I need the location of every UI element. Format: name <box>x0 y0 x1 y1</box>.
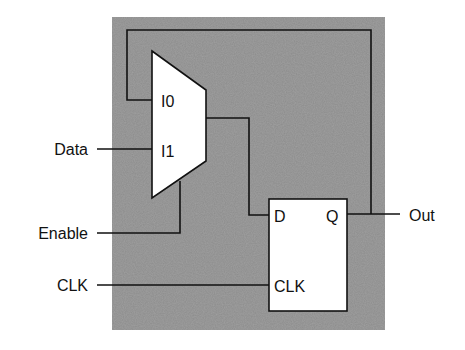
data-input-label: Data <box>54 141 88 158</box>
circuit-diagram: I0 I1 D Q CLK Data Enable CLK Out <box>0 0 465 350</box>
ff-q-label: Q <box>326 208 338 225</box>
mux-input-i0-label: I0 <box>161 93 174 110</box>
enable-input-label: Enable <box>38 225 88 242</box>
out-label: Out <box>409 207 435 224</box>
clk-input-label: CLK <box>57 277 88 294</box>
ff-clk-label: CLK <box>274 278 305 295</box>
ff-d-label: D <box>274 208 286 225</box>
mux-input-i1-label: I1 <box>161 143 174 160</box>
d-flipflop: D Q CLK <box>269 199 347 311</box>
